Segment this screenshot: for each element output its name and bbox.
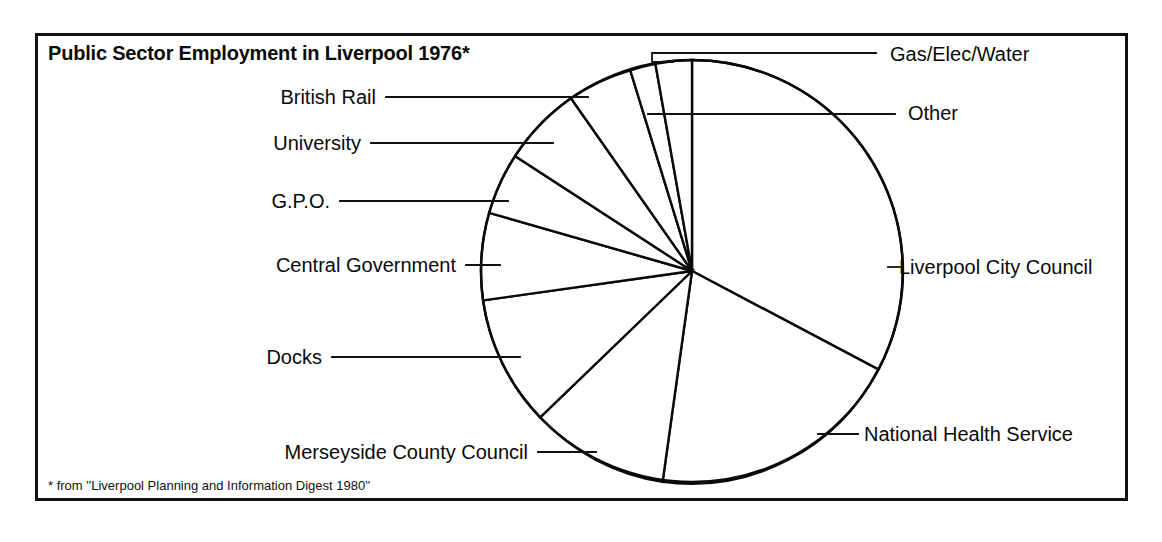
chart-title: Public Sector Employment in Liverpool 19… [48,42,470,65]
pie-label-other[interactable]: Other [908,103,958,123]
pie-label-university[interactable]: University [60,133,361,153]
chart-page: Public Sector Employment in Liverpool 19… [0,0,1162,542]
pie-label-docks[interactable]: Docks [60,347,322,367]
pie-label-gas-elec-water[interactable]: Gas/Elec/Water [890,44,1029,64]
pie-label-gpo[interactable]: G.P.O. [60,191,330,211]
pie-label-british-rail[interactable]: British Rail [60,87,376,107]
pie-label-merseyside-county-council[interactable]: Merseyside County Council [60,442,528,462]
chart-footnote: * from ''Liverpool Planning and Informat… [48,478,370,493]
pie-label-central-government[interactable]: Central Government [60,255,456,275]
pie-label-liverpool-city-council[interactable]: Liverpool City Council [899,257,1092,277]
pie-label-national-health-service[interactable]: National Health Service [864,424,1073,444]
